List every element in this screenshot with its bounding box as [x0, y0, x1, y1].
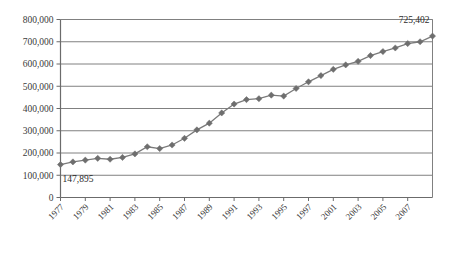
- x-tick-label: 1985: [145, 201, 165, 221]
- data-point-marker: [119, 154, 125, 160]
- x-tick-label: 1989: [195, 201, 215, 221]
- chart-container: 800,000700,000600,000500,000400,000300,0…: [0, 0, 461, 253]
- y-tick-label: 100,000: [23, 171, 54, 181]
- data-point-marker: [144, 144, 150, 150]
- data-point-marker: [281, 93, 287, 99]
- data-point-marker: [157, 145, 163, 151]
- y-tick-label: 800,000: [23, 15, 54, 25]
- x-tick-label: 1997: [294, 201, 314, 221]
- data-point-marker: [268, 92, 274, 98]
- x-tick-label: 1991: [220, 202, 240, 222]
- data-point-marker: [243, 97, 249, 103]
- data-point-marker: [429, 33, 435, 39]
- data-point-marker: [169, 142, 175, 148]
- line-chart: 800,000700,000600,000500,000400,000300,0…: [0, 0, 461, 253]
- data-point-marker: [318, 72, 324, 78]
- data-point-marker: [107, 156, 113, 162]
- x-tick-label: 1977: [46, 201, 66, 221]
- first-point-label: 147,895: [63, 174, 94, 184]
- x-tick-label: 1981: [96, 202, 116, 222]
- last-point-label: 725,402: [399, 15, 430, 25]
- y-tick-label: 300,000: [23, 126, 54, 136]
- x-tick-label: 1987: [170, 201, 190, 221]
- x-tick-label: 1983: [121, 201, 141, 221]
- data-point-marker: [70, 159, 76, 165]
- data-point-marker: [82, 157, 88, 163]
- y-tick-label: 500,000: [23, 82, 54, 92]
- data-point-marker: [132, 151, 138, 157]
- x-tick-label: 1979: [71, 201, 91, 221]
- x-tick-label: 2003: [344, 201, 364, 221]
- data-point-marker: [417, 39, 423, 45]
- y-tick-label: 200,000: [23, 148, 54, 158]
- y-tick-label: 700,000: [23, 37, 54, 47]
- data-point-marker: [392, 45, 398, 51]
- data-point-marker: [57, 161, 63, 167]
- data-point-marker: [330, 66, 336, 72]
- x-tick-label: 2007: [393, 201, 413, 221]
- y-tick-label: 600,000: [23, 59, 54, 69]
- y-tick-label: 400,000: [23, 104, 54, 114]
- x-tick-label: 1995: [269, 201, 289, 221]
- data-point-marker: [380, 48, 386, 54]
- x-tick-label: 2005: [369, 201, 389, 221]
- y-tick-label: 0: [49, 193, 54, 203]
- data-point-marker: [256, 96, 262, 102]
- y-gridlines: [57, 20, 433, 198]
- x-tick-label: 1993: [245, 201, 265, 221]
- data-point-marker: [305, 79, 311, 85]
- data-point-marker: [343, 62, 349, 68]
- data-point-marker: [95, 155, 101, 161]
- data-point-marker: [367, 52, 373, 58]
- y-axis-labels: 800,000700,000600,000500,000400,000300,0…: [23, 15, 54, 203]
- x-axis-labels: 1977197919811983198519871989199119931995…: [46, 198, 413, 222]
- x-tick-label: 2001: [319, 202, 339, 222]
